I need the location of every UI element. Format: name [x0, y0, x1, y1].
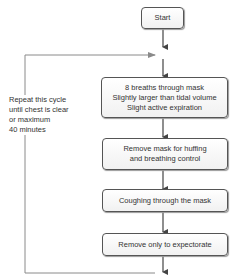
loop-note: Repeat this cycle until chest is clear o…: [9, 95, 89, 135]
note-line: Repeat this cycle: [9, 95, 89, 105]
step-text: Slight active expiration: [127, 103, 202, 113]
step-text: 8 breaths through mask: [125, 83, 204, 93]
step-text: Slightly larger than tidal volume: [112, 93, 216, 103]
step-breaths: 8 breaths through mask Slightly larger t…: [101, 77, 228, 118]
step-remove-expectorate: Remove only to expectorate: [102, 233, 228, 256]
step-text: Remove mask for huffing: [123, 144, 206, 154]
step-coughing: Coughing through the mask: [102, 189, 228, 212]
start-label: Start: [155, 13, 171, 23]
step-text: Remove only to expectorate: [118, 240, 211, 250]
start-node: Start: [141, 7, 184, 29]
step-remove-mask-huffing: Remove mask for huffing and breathing co…: [102, 138, 228, 170]
note-line: 40 minutes: [9, 125, 89, 135]
step-text: Coughing through the mask: [119, 196, 211, 206]
note-line: or maximum: [9, 115, 89, 125]
step-text: and breathing control: [130, 154, 200, 164]
note-line: until chest is clear: [9, 105, 89, 115]
